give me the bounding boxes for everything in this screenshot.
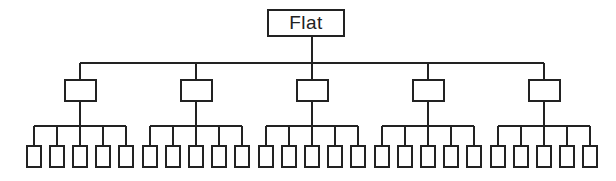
leaf-node-box xyxy=(351,146,365,167)
mid-node-box xyxy=(297,80,328,101)
leaf-node-box xyxy=(560,146,574,167)
leaf-node-box xyxy=(537,146,551,167)
mid-node-group xyxy=(143,63,249,167)
leaf-node-box xyxy=(491,146,505,167)
leaf-node-box xyxy=(398,146,412,167)
leaf-node-box xyxy=(328,146,342,167)
leaf-node-box xyxy=(514,146,528,167)
leaf-node-box xyxy=(421,146,435,167)
mid-node-group xyxy=(259,63,365,167)
mid-node-box xyxy=(413,80,444,101)
leaf-node-box xyxy=(50,146,64,167)
leaf-node-box xyxy=(375,146,389,167)
leaf-node-box xyxy=(73,146,87,167)
mid-node-group xyxy=(27,63,133,167)
mid-node-box xyxy=(529,80,560,101)
leaf-node-box xyxy=(27,146,41,167)
mid-node-box xyxy=(65,80,96,101)
leaf-node-box xyxy=(259,146,273,167)
leaf-node-box xyxy=(467,146,481,167)
leaf-node-box xyxy=(166,146,180,167)
leaf-node-box xyxy=(96,146,110,167)
mid-node-group xyxy=(375,63,481,167)
leaf-node-box xyxy=(305,146,319,167)
mid-node-box xyxy=(181,80,212,101)
leaf-node-box xyxy=(583,146,597,167)
root-node-label: Flat xyxy=(268,10,344,36)
leaf-node-box xyxy=(143,146,157,167)
leaf-node-box xyxy=(212,146,226,167)
leaf-node-box xyxy=(282,146,296,167)
leaf-node-box xyxy=(235,146,249,167)
leaf-node-box xyxy=(119,146,133,167)
leaf-node-box xyxy=(189,146,203,167)
mid-node-group xyxy=(491,63,597,167)
leaf-node-box xyxy=(444,146,458,167)
